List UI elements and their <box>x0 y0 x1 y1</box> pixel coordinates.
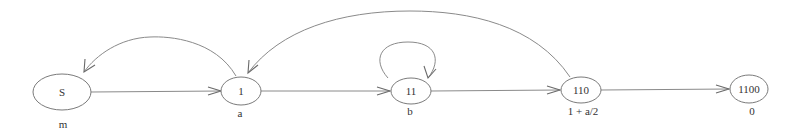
node-label: 11 <box>406 85 417 97</box>
edge-1-to-11 <box>261 87 390 95</box>
node-label: 1100 <box>738 83 760 95</box>
node-1100: 1100 0 <box>730 75 768 117</box>
node-value: 1 + a/2 <box>568 105 599 117</box>
edge-110-to-1 <box>248 11 570 77</box>
node-s: S m <box>33 74 91 130</box>
edge-110-to-1100 <box>601 85 729 93</box>
node-value: a <box>238 107 243 119</box>
node-1: 1 a <box>221 77 261 119</box>
node-value: m <box>59 118 68 130</box>
node-label: S <box>59 86 65 98</box>
edge-1-to-s <box>84 37 236 76</box>
state-diagram: S m 1 a 11 b 110 1 + a/2 1100 0 <box>0 0 797 130</box>
node-value: b <box>407 105 413 117</box>
edge-11-to-110 <box>431 86 560 94</box>
edge-11-self-loop <box>380 42 436 78</box>
node-110: 110 1 + a/2 <box>561 77 601 117</box>
node-11: 11 b <box>391 78 431 117</box>
node-value: 0 <box>749 105 755 117</box>
node-label: 1 <box>238 85 244 97</box>
node-label: 110 <box>573 84 590 96</box>
edge-s-to-1 <box>91 87 221 95</box>
